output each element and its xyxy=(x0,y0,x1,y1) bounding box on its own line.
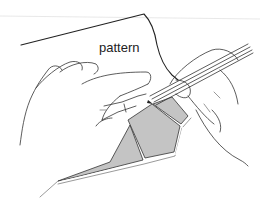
fabric-pieces xyxy=(58,97,188,181)
scissors xyxy=(147,44,253,105)
pattern-cutting-illustration: pattern xyxy=(0,0,260,206)
fabric-tail-line xyxy=(40,181,58,197)
right-hand xyxy=(170,49,248,166)
pattern-label: pattern xyxy=(99,40,139,55)
